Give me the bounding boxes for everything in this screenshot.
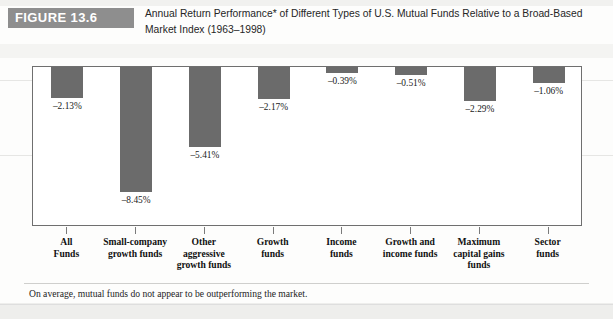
category-label: Growthfunds — [238, 236, 307, 259]
category-label-line: Growth and — [376, 236, 445, 248]
category-label: Maximumcapital gainsfunds — [445, 236, 514, 271]
axis-tick — [410, 227, 411, 234]
category-label-line: funds — [445, 259, 514, 271]
figure-footnote: On average, mutual funds do not appear t… — [29, 288, 307, 299]
category-label-line: Other — [170, 236, 239, 248]
bar — [326, 67, 358, 73]
category-label-line: Maximum — [445, 236, 514, 248]
figure-title: Annual Return Performance* of Different … — [145, 6, 605, 37]
category-label-line: Sector — [513, 236, 582, 248]
bar — [464, 67, 496, 101]
category-label: AllFunds — [32, 236, 101, 259]
category-label: Small-companygrowth funds — [101, 236, 170, 259]
category-label-line: capital gains — [445, 248, 514, 260]
bar — [120, 67, 152, 192]
figure-number-tag: FIGURE 13.6 — [8, 8, 134, 28]
bar-value-label: –0.51% — [371, 78, 451, 88]
category-label-line: funds — [238, 248, 307, 260]
axis-tick — [273, 227, 274, 234]
category-label-line: Small-company — [101, 236, 170, 248]
category-label: Sectorfunds — [513, 236, 582, 259]
scan-band-bottom — [0, 303, 613, 319]
bar — [189, 67, 221, 147]
bar-value-label: –2.17% — [234, 102, 314, 112]
chart-plot-area: –2.13%–8.45%–5.41%–2.17%–0.39%–0.51%–2.2… — [32, 66, 582, 226]
footnote-divider — [24, 283, 589, 284]
category-label-line: aggressive — [170, 248, 239, 260]
bar-value-label: –2.13% — [27, 101, 107, 111]
figure-page: FIGURE 13.6 Annual Return Performance* o… — [0, 0, 613, 319]
category-label-line: Funds — [32, 248, 101, 260]
category-label: Otheraggressivegrowth funds — [170, 236, 239, 271]
category-label-line: funds — [307, 248, 376, 260]
category-label-line: growth funds — [101, 248, 170, 260]
bar — [51, 67, 83, 98]
bar — [395, 67, 427, 75]
category-label-line: income funds — [376, 248, 445, 260]
category-label: Growth andincome funds — [376, 236, 445, 259]
page-edge — [0, 304, 613, 305]
bar-value-label: –8.45% — [96, 195, 176, 205]
scan-band-upper — [0, 44, 613, 58]
bar-value-label: –5.41% — [165, 150, 245, 160]
category-label: Incomefunds — [307, 236, 376, 259]
category-label-line: growth funds — [170, 259, 239, 271]
category-label-line: All — [32, 236, 101, 248]
bar — [258, 67, 290, 99]
axis-tick — [479, 227, 480, 234]
axis-tick — [341, 227, 342, 234]
category-label-line: Growth — [238, 236, 307, 248]
axis-tick — [66, 227, 67, 234]
category-label-line: funds — [513, 248, 582, 260]
axis-tick — [135, 227, 136, 234]
axis-tick — [204, 227, 205, 234]
category-label-line: Income — [307, 236, 376, 248]
bar-value-label: –1.06% — [509, 86, 589, 96]
axis-tick — [548, 227, 549, 234]
bar-value-label: –2.29% — [440, 104, 520, 114]
bar — [533, 67, 565, 83]
